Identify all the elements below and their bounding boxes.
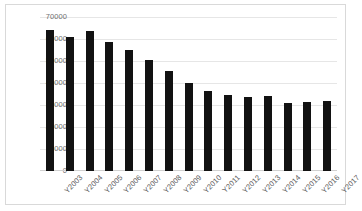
x-axis-tick-label: Y2012: [241, 173, 263, 195]
chart-container: 700006000050000400003000020000100000 Y20…: [5, 4, 346, 205]
plot-area: 700006000050000400003000020000100000 Y20…: [6, 5, 345, 204]
x-axis-tick-label: Y2013: [260, 173, 282, 195]
bar: [224, 95, 232, 171]
bar: [185, 83, 193, 171]
bar: [66, 37, 74, 171]
bar: [323, 101, 331, 171]
x-axis-tick-label: Y2007: [142, 173, 164, 195]
x-axis-tick-label: Y2015: [300, 173, 322, 195]
x-axis-tick-label: Y2006: [122, 173, 144, 195]
bar: [244, 97, 252, 171]
x-axis-tick-label: Y2008: [161, 173, 183, 195]
x-axis-tick-label: Y2010: [201, 173, 223, 195]
x-axis-tick-label: Y2003: [62, 173, 84, 195]
bar: [264, 96, 272, 171]
x-axis-tick-label: Y2017: [340, 173, 362, 195]
x-axis-tick-label: Y2009: [181, 173, 203, 195]
bar: [204, 91, 212, 171]
bar: [284, 103, 292, 171]
bar: [165, 71, 173, 171]
bar: [105, 42, 113, 171]
x-axis-tick-label: Y2014: [280, 173, 302, 195]
x-axis-tick-label: Y2005: [102, 173, 124, 195]
x-axis-tick-label: Y2016: [320, 173, 342, 195]
bar: [145, 60, 153, 171]
bar: [125, 50, 133, 171]
bar: [303, 102, 311, 171]
bar: [46, 30, 54, 171]
x-axis-tick-label: Y2004: [82, 173, 104, 195]
bars-group: [40, 17, 337, 171]
x-axis-tick-label: Y2011: [221, 173, 243, 195]
bar: [86, 31, 94, 171]
x-axis-labels-group: Y2003Y2004Y2005Y2006Y2007Y2008Y2009Y2010…: [40, 173, 337, 207]
